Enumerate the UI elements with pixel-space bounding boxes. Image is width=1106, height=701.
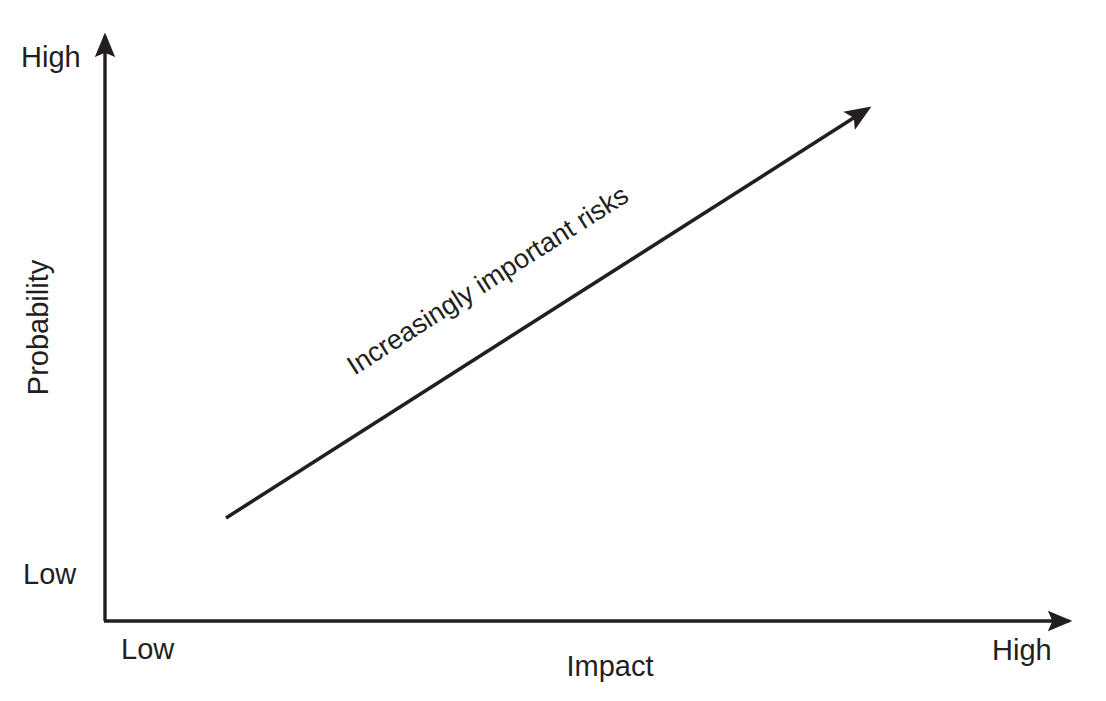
chart-plot-area [0,0,1106,701]
y-axis-low-tick-label: Low [23,560,76,589]
x-axis-high-tick-label: High [992,636,1052,665]
x-axis-title: Impact [505,652,715,681]
bottom-edge-bleed [0,691,1106,701]
trend-arrow-line [226,110,866,518]
y-axis-high-tick-label: High [21,43,81,72]
x-axis-low-tick-label: Low [121,635,174,664]
risk-matrix-chart: High Low Low High Probability Impact Inc… [0,0,1106,701]
y-axis-title: Probability [24,208,53,448]
